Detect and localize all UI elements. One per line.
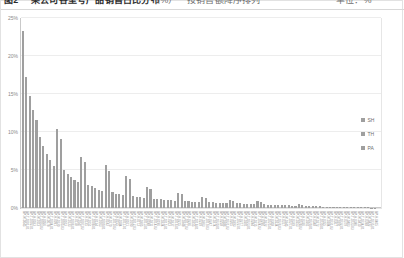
figure-title-bar: 图2 某公司各型号产品销售占比分布 （%） 按销售额降序排列 单位：% (1, 0, 404, 10)
y-tick-5: 5% (0, 167, 18, 173)
bar (201, 197, 203, 208)
bar (170, 200, 172, 208)
bar (246, 204, 248, 208)
bar (174, 201, 176, 208)
legend-item-sh[interactable]: SH (361, 113, 401, 127)
bar (357, 207, 359, 208)
bar (232, 201, 234, 208)
bar (319, 206, 321, 208)
bar (87, 185, 89, 208)
bar (94, 188, 96, 208)
bar (274, 205, 276, 208)
bar (194, 202, 196, 208)
bar (184, 201, 186, 208)
bar (25, 77, 27, 208)
bar (370, 208, 372, 209)
bar (312, 206, 314, 208)
bar (146, 187, 148, 208)
bar (35, 120, 37, 208)
bar (336, 207, 338, 208)
bar (70, 177, 72, 208)
bar (239, 203, 241, 208)
legend-swatch-icon (361, 118, 365, 122)
bar (105, 165, 107, 208)
bar (132, 196, 134, 208)
bar (56, 129, 58, 208)
legend-item-th[interactable]: TH (361, 127, 401, 141)
bar (353, 207, 355, 208)
y-tick-0: 0% (0, 205, 18, 211)
bar (322, 207, 324, 209)
bar (270, 205, 272, 208)
figure-number: 图2 (4, 0, 18, 6)
bar (108, 171, 110, 208)
bar (139, 197, 141, 208)
bar (39, 137, 41, 208)
bar (143, 198, 145, 208)
bar (153, 199, 155, 208)
bar (163, 200, 165, 208)
chart-legend: SHTHPA (361, 113, 401, 155)
bar (346, 207, 348, 208)
bar (305, 206, 307, 208)
bar (374, 208, 376, 209)
bar (326, 207, 328, 208)
bar (364, 207, 366, 208)
bar (77, 182, 79, 208)
bar (187, 201, 189, 208)
bar (298, 204, 300, 208)
bar (42, 146, 44, 208)
bar (212, 202, 214, 208)
bar (129, 179, 131, 208)
bar (60, 139, 62, 208)
bar (267, 205, 269, 208)
bar (350, 207, 352, 208)
bar (329, 207, 331, 208)
legend-item-pa[interactable]: PA (361, 141, 401, 155)
bar (219, 203, 221, 208)
bar (49, 160, 51, 208)
bar (115, 194, 117, 208)
bar (181, 194, 183, 208)
bar (149, 189, 151, 208)
bar (63, 170, 65, 208)
bar (122, 195, 124, 208)
bar (53, 166, 55, 208)
bar (294, 206, 296, 208)
bar (263, 204, 265, 208)
x-axis-tick-labels: BP-W-0045BP-T-1001-01BP-T-1002-01BP-H-00… (21, 210, 381, 258)
bar (29, 96, 31, 208)
bar (167, 200, 169, 208)
bar (250, 204, 252, 208)
figure-title-right: 单位：% (336, 0, 372, 6)
bar (101, 191, 103, 208)
y-tick-10: 10% (0, 129, 18, 135)
bar (360, 207, 362, 208)
bar (32, 110, 34, 208)
legend-label: SH (368, 117, 375, 123)
bar (215, 203, 217, 208)
bar (225, 203, 227, 208)
figure-title-unit: （%） (151, 0, 178, 6)
bar (136, 197, 138, 208)
bar (284, 205, 286, 208)
bar (315, 206, 317, 208)
bar (291, 206, 293, 208)
bar (156, 199, 158, 208)
bar (205, 198, 207, 208)
bar (22, 31, 24, 208)
x-label-slot: BP-H-0405 (373, 210, 376, 258)
y-tick-20: 20% (0, 53, 18, 59)
figure-title-note: 按销售额降序排列 (187, 0, 261, 6)
x-tick-label: BP-H-0405 (373, 211, 376, 226)
bar (46, 154, 48, 208)
legend-label: PA (368, 145, 374, 151)
bar (229, 200, 231, 208)
y-tick-15: 15% (0, 91, 18, 97)
bar (98, 190, 100, 208)
bar (253, 204, 255, 208)
bar (260, 202, 262, 208)
bar (277, 205, 279, 208)
bar (339, 207, 341, 208)
